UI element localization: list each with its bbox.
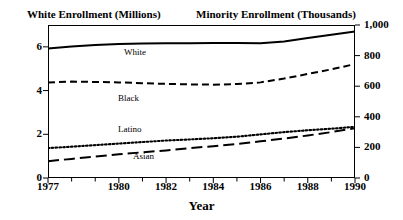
x-axis-tick-label: 1988 <box>286 180 330 192</box>
left-axis-tick-label: 2 <box>12 127 42 139</box>
x-axis-tick-label: 1982 <box>144 180 188 192</box>
x-axis-title: Year <box>0 198 403 214</box>
right-axis-tick-label: 400 <box>364 110 381 122</box>
x-axis-tick-label: 1980 <box>97 180 141 192</box>
series-label-black: Black <box>118 93 139 103</box>
left-axis-tick-label: 4 <box>12 84 42 96</box>
right-axis-tick-label: 600 <box>364 79 381 91</box>
series-label-white: White <box>124 47 146 57</box>
x-axis-tick-label: 1986 <box>239 180 283 192</box>
right-axis-tick-label: 200 <box>364 140 381 152</box>
series-label-latino: Latino <box>118 124 142 134</box>
left-axis-tick-label: 6 <box>12 40 42 52</box>
x-axis-tick-label: 1984 <box>191 180 235 192</box>
series-label-asian: Asian <box>133 151 154 161</box>
right-axis-tick-label: 800 <box>364 49 381 61</box>
x-axis-tick-label: 1977 <box>26 180 70 192</box>
right-axis-tick-label: 1,000 <box>364 18 389 30</box>
chart-figure: White Enrollment (Millions) Minority Enr… <box>0 0 403 220</box>
x-axis-tick-label: 1990 <box>333 180 377 192</box>
